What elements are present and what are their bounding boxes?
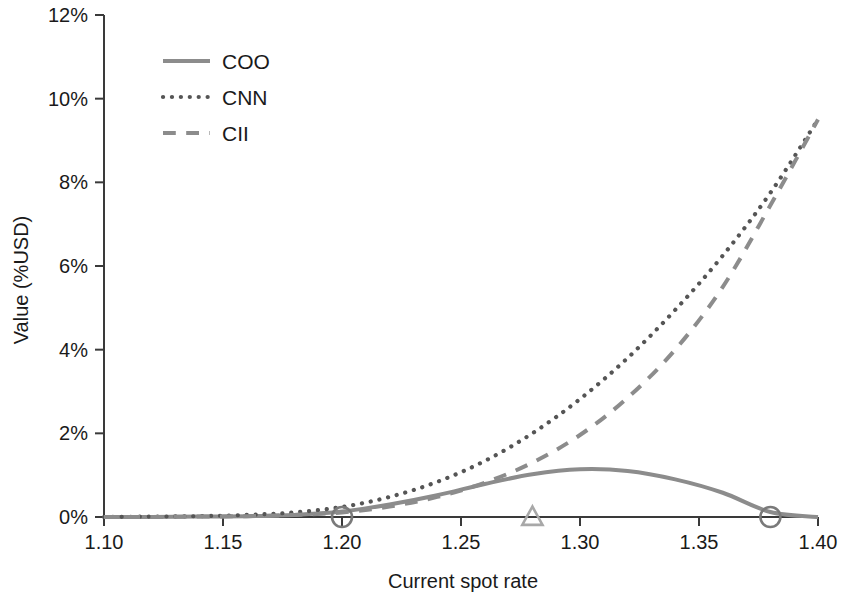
legend-label-coo: COO [222, 50, 270, 73]
series-line-cii [104, 120, 818, 517]
x-axis-title: Current spot rate [388, 570, 538, 592]
chart-plot-area: 0%2%4%6%8%10%12% 1.101.151.201.251.301.3… [0, 0, 844, 595]
x-axis-tick-label: 1.20 [323, 531, 362, 553]
y-axis-tick-label: 10% [48, 88, 88, 110]
x-axis-tick-label: 1.35 [680, 531, 719, 553]
chart-figure: 0%2%4%6%8%10%12% 1.101.151.201.251.301.3… [0, 0, 844, 595]
y-axis-title: Value (%USD) [10, 216, 32, 345]
legend-label-cnn: CNN [222, 86, 268, 109]
strike-marker [522, 507, 542, 525]
y-axis: 0%2%4%6%8%10%12% [48, 4, 104, 528]
x-axis-tick-label: 1.25 [442, 531, 481, 553]
y-axis-tick-label: 0% [59, 506, 88, 528]
y-axis-tick-label: 12% [48, 4, 88, 26]
x-axis-tick-label: 1.10 [85, 531, 124, 553]
x-axis-tick-label: 1.40 [799, 531, 838, 553]
series-line-coo [104, 469, 818, 517]
y-axis-tick-label: 4% [59, 339, 88, 361]
x-axis-tick-label: 1.15 [204, 531, 243, 553]
x-axis-tick-label: 1.30 [561, 531, 600, 553]
y-axis-tick-label: 8% [59, 171, 88, 193]
x-axis: 1.101.151.201.251.301.351.40 [85, 517, 838, 553]
series-line-cnn [104, 120, 818, 517]
y-axis-tick-label: 6% [59, 255, 88, 277]
data-series-group [104, 120, 818, 517]
y-axis-tick-label: 2% [59, 422, 88, 444]
legend-label-cii: CII [222, 122, 249, 145]
chart-legend: COOCNNCII [163, 50, 270, 145]
